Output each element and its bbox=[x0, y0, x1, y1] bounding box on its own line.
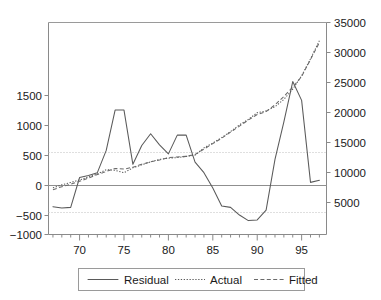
series-line-actual bbox=[53, 41, 319, 188]
right-tick-label-25000: 25000 bbox=[334, 77, 366, 89]
right-tick-label-35000: 35000 bbox=[334, 17, 366, 29]
right-tick-label-30000: 30000 bbox=[334, 47, 366, 59]
x-tick-label: 85 bbox=[206, 244, 219, 256]
right-tick-label-10000: 10000 bbox=[334, 167, 366, 179]
legend-label-residual: Residual bbox=[124, 274, 169, 286]
gridlines bbox=[49, 153, 327, 213]
legend-label-fitted: Fitted bbox=[289, 274, 318, 286]
series-line-residual bbox=[53, 82, 319, 221]
chart-container: 1500 1000 500 0 −500 −1000 35000 30000 2… bbox=[0, 0, 381, 300]
left-tick-label-1500: 1500 bbox=[16, 90, 42, 102]
right-axis-ticks bbox=[327, 23, 331, 203]
right-axis-labels: 35000 30000 25000 20000 15000 10000 5000 bbox=[334, 17, 366, 209]
left-axis-ticks bbox=[45, 96, 49, 235]
legend-label-actual: Actual bbox=[210, 274, 242, 286]
chart-legend: Residual Actual Fitted bbox=[79, 269, 318, 291]
left-tick-label-500: 500 bbox=[23, 150, 42, 162]
right-tick-label-15000: 15000 bbox=[334, 137, 366, 149]
left-tick-label-0: 0 bbox=[36, 180, 42, 192]
series-line-fitted bbox=[53, 42, 319, 189]
x-tick-label: 70 bbox=[73, 244, 86, 256]
right-tick-label-20000: 20000 bbox=[334, 107, 366, 119]
left-tick-label-1000: 1000 bbox=[16, 120, 42, 132]
plot-frame bbox=[49, 23, 327, 235]
x-axis-ticks bbox=[53, 235, 319, 241]
line-chart: 1500 1000 500 0 −500 −1000 35000 30000 2… bbox=[0, 0, 381, 300]
data-series-group bbox=[53, 41, 319, 221]
left-tick-label-minus1000: −1000 bbox=[10, 229, 42, 241]
left-tick-label-minus500: −500 bbox=[16, 210, 42, 222]
x-tick-label: 75 bbox=[118, 244, 131, 256]
x-tick-label: 80 bbox=[162, 244, 175, 256]
x-tick-label: 95 bbox=[295, 244, 308, 256]
x-tick-label: 90 bbox=[251, 244, 264, 256]
x-axis-labels: 707580859095 bbox=[73, 244, 308, 256]
right-tick-label-5000: 5000 bbox=[334, 197, 360, 209]
left-axis-labels: 1500 1000 500 0 −500 −1000 bbox=[10, 90, 42, 241]
